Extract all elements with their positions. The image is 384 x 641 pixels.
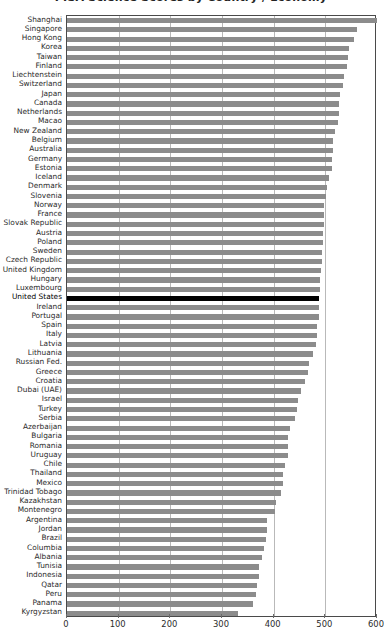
- category-label: Sweden: [33, 246, 62, 255]
- bar: [67, 250, 322, 255]
- bar: [67, 574, 259, 579]
- bar-row: [67, 581, 375, 590]
- bar: [67, 277, 320, 282]
- bar: [67, 490, 281, 495]
- axis-tick-label: 300: [213, 619, 229, 629]
- category-label: Turkey: [38, 404, 62, 413]
- bar: [67, 500, 276, 505]
- axis-tick-mark: [221, 614, 222, 618]
- category-label: Peru: [46, 589, 62, 598]
- bar-row: [67, 479, 375, 488]
- bar: [67, 64, 347, 69]
- category-label: Shanghai: [27, 15, 62, 24]
- bar: [67, 203, 324, 208]
- category-label: Portugal: [31, 311, 62, 320]
- category-label: Austria: [36, 228, 62, 237]
- category-label: Kazakhstan: [19, 496, 62, 505]
- bar-row: [67, 164, 375, 173]
- bar: [67, 259, 322, 264]
- bar-row: [67, 590, 375, 599]
- bar-row: [67, 525, 375, 534]
- category-label: Uruguay: [31, 450, 62, 459]
- category-label: Tunisia: [37, 561, 62, 570]
- bar-row: [67, 488, 375, 497]
- bar: [67, 74, 344, 79]
- bar-row: [67, 248, 375, 257]
- category-label: Ireland: [36, 302, 62, 311]
- bar-row: [67, 81, 375, 90]
- bar-row: [67, 192, 375, 201]
- category-label: Luxembourg: [16, 283, 62, 292]
- axis-tick-label: 400: [265, 619, 281, 629]
- bar: [67, 101, 339, 106]
- bar: [67, 37, 354, 42]
- bars-container: [67, 16, 375, 616]
- bar-row: [67, 201, 375, 210]
- category-label: Belgium: [32, 135, 62, 144]
- category-label: Taiwan: [37, 52, 62, 61]
- category-label: New Zealand: [13, 126, 62, 135]
- bar: [67, 333, 317, 338]
- category-label: Argentina: [26, 515, 62, 524]
- bar-row: [67, 210, 375, 219]
- bar: [67, 361, 309, 366]
- bar-row: [67, 109, 375, 118]
- category-label: Greece: [36, 367, 62, 376]
- bar-row: [67, 229, 375, 238]
- bar: [67, 370, 308, 375]
- bar-row: [67, 424, 375, 433]
- bar-row: [67, 312, 375, 321]
- category-label: Canada: [34, 98, 62, 107]
- category-label: Estonia: [35, 163, 62, 172]
- category-label: Trinidad Tobago: [4, 487, 62, 496]
- category-label: Finland: [36, 61, 62, 70]
- category-label: Croatia: [35, 376, 62, 385]
- bar: [67, 92, 340, 97]
- category-label: Slovak Republic: [4, 218, 62, 227]
- bar-row: [67, 275, 375, 284]
- bar-row: [67, 349, 375, 358]
- bar: [67, 342, 316, 347]
- bar: [67, 398, 298, 403]
- bar-row: [67, 368, 375, 377]
- category-label: Panama: [32, 598, 62, 607]
- category-label: Thailand: [30, 468, 62, 477]
- bar-row: [67, 414, 375, 423]
- axis-tick-label: 200: [161, 619, 177, 629]
- bar-row: [67, 44, 375, 53]
- bar-row: [67, 136, 375, 145]
- bar-row: [67, 461, 375, 470]
- category-label: Bulgaria: [31, 431, 62, 440]
- category-label: Columbia: [27, 543, 62, 552]
- category-label: Hong Kong: [22, 33, 62, 42]
- bar-row: [67, 53, 375, 62]
- category-label: Chile: [44, 459, 63, 468]
- category-label: Mexico: [36, 478, 62, 487]
- bar: [67, 416, 295, 421]
- bar-row: [67, 359, 375, 368]
- axis-tick-mark: [66, 614, 67, 618]
- category-label: Indonesia: [26, 570, 62, 579]
- bar-row: [67, 99, 375, 108]
- category-label: Germany: [28, 154, 62, 163]
- category-label: Latvia: [39, 339, 62, 348]
- bar: [67, 583, 257, 588]
- bar-row: [67, 303, 375, 312]
- bar-row: [67, 322, 375, 331]
- bar: [67, 166, 332, 171]
- category-label: Denmark: [28, 181, 62, 190]
- axis-tick-label: 0: [63, 619, 68, 629]
- plot-area: [66, 15, 376, 617]
- bar-row: [67, 238, 375, 247]
- bar-row: [67, 442, 375, 451]
- axis-tick-label: 100: [110, 619, 126, 629]
- bar-row: [67, 544, 375, 553]
- bar: [67, 138, 333, 143]
- bar-row: [67, 294, 375, 303]
- category-label: Spain: [41, 320, 62, 329]
- category-label: Poland: [37, 237, 62, 246]
- category-label: Lithuania: [28, 348, 62, 357]
- bar-row: [67, 405, 375, 414]
- bar-row: [67, 173, 375, 182]
- category-label: Netherlands: [17, 107, 62, 116]
